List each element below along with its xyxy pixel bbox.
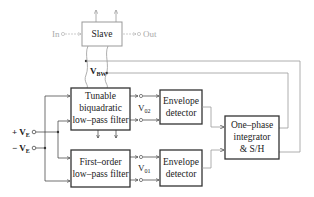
v02-label: V02 [138,103,151,114]
v02-outputs: V02 [130,94,159,121]
ven-label: −VE [12,143,30,154]
svg-text:detector: detector [166,108,197,118]
slave-block: Slave In Out [52,10,157,46]
svg-text:integrator: integrator [234,132,272,142]
svg-text:One–phase: One–phase [231,120,273,130]
block-diagram: Slave In Out VBW Tunable biquadratic low… [0,0,314,197]
first-order-filter-block: First–order low–pass filter [71,150,130,187]
svg-text:First–order: First–order [79,157,122,167]
vep-terminal [32,130,36,134]
svg-text:low–pass filter: low–pass filter [72,169,129,179]
svg-text:Envelope: Envelope [163,157,199,167]
v01-outputs: V01 [130,155,159,181]
slave-label: Slave [91,29,112,39]
vbw-label: VBW [90,66,107,77]
svg-text:biquadratic: biquadratic [79,103,122,113]
svg-text:Tunable: Tunable [85,91,116,101]
svg-text:detector: detector [166,169,197,179]
svg-text:low–pass filter: low–pass filter [72,115,129,125]
envelope-detector-2: Envelope detector [160,150,202,186]
envelope-detector-1: Envelope detector [160,90,202,124]
ven-terminal [32,146,36,150]
slave-out-label: Out [143,29,157,39]
v01-label: V01 [138,163,151,174]
tunable-filter-block: Tunable biquadratic low–pass filter [71,88,130,138]
svg-text:Envelope: Envelope [163,96,199,106]
svg-text:& S/H: & S/H [240,144,265,154]
slave-in-label: In [52,29,60,39]
vep-label: +VE [12,127,30,138]
integrator-block: One–phase integrator & S/H [225,116,279,159]
